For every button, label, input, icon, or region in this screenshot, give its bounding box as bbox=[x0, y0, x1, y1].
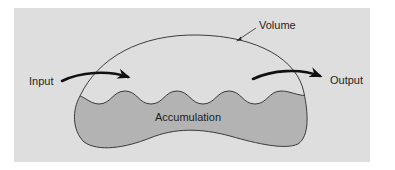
output-label: Output bbox=[330, 75, 363, 86]
output-arrow-icon bbox=[253, 71, 320, 79]
accumulation-region bbox=[70, 91, 312, 160]
volume-label: Volume bbox=[259, 20, 296, 31]
input-arrow-icon bbox=[62, 73, 128, 81]
accumulation-label: Accumulation bbox=[155, 112, 221, 123]
input-label: Input bbox=[29, 76, 53, 87]
